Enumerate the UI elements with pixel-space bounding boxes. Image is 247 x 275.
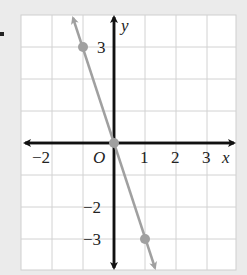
origin-label: O xyxy=(93,148,105,167)
x-axis-label: x xyxy=(221,148,230,167)
point xyxy=(140,234,150,244)
x-tick-label: 1 xyxy=(140,148,149,167)
x-tick-label: 3 xyxy=(202,148,211,167)
y-tick-label: −2 xyxy=(83,198,101,217)
x-tick-label: 2 xyxy=(171,148,180,167)
coordinate-plane: y x O −2 1 2 3 3 −2 −3 xyxy=(0,0,247,275)
x-tick-label: −2 xyxy=(32,148,50,167)
y-tick-label: −3 xyxy=(83,230,101,249)
point xyxy=(109,138,119,148)
y-tick-label: 3 xyxy=(97,38,106,57)
point xyxy=(78,42,88,52)
y-axis-label: y xyxy=(119,16,129,35)
